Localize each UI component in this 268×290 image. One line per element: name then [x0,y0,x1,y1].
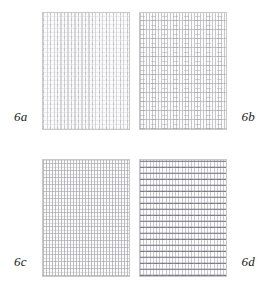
weave-swatch-6b [139,12,227,130]
weave-texture-6a [43,13,129,129]
panel-label-6c: 6c [14,255,27,268]
figure-cell-6a: 6a [0,0,134,145]
panel-label-6d: 6d [241,255,255,268]
weave-texture-6b [140,13,226,129]
weave-swatch-6d [139,159,227,277]
weave-texture-6d [140,160,226,276]
figure-cell-6b: 6b [134,0,268,145]
panel-label-6a: 6a [14,110,28,123]
figure-cell-6d: 6d [134,145,268,290]
dash-overlay-6b [140,13,226,129]
weave-texture-6c [43,160,129,276]
figure-panel-grid: 6a 6b 6c 6d [0,0,268,290]
panel-label-6b: 6b [241,110,255,123]
weave-swatch-6c [42,159,130,277]
dash-overlay-6a [43,13,129,129]
dash-overlay-6c [43,160,129,276]
dash-overlay-6d [140,160,226,276]
weave-swatch-6a [42,12,130,130]
figure-cell-6c: 6c [0,145,134,290]
